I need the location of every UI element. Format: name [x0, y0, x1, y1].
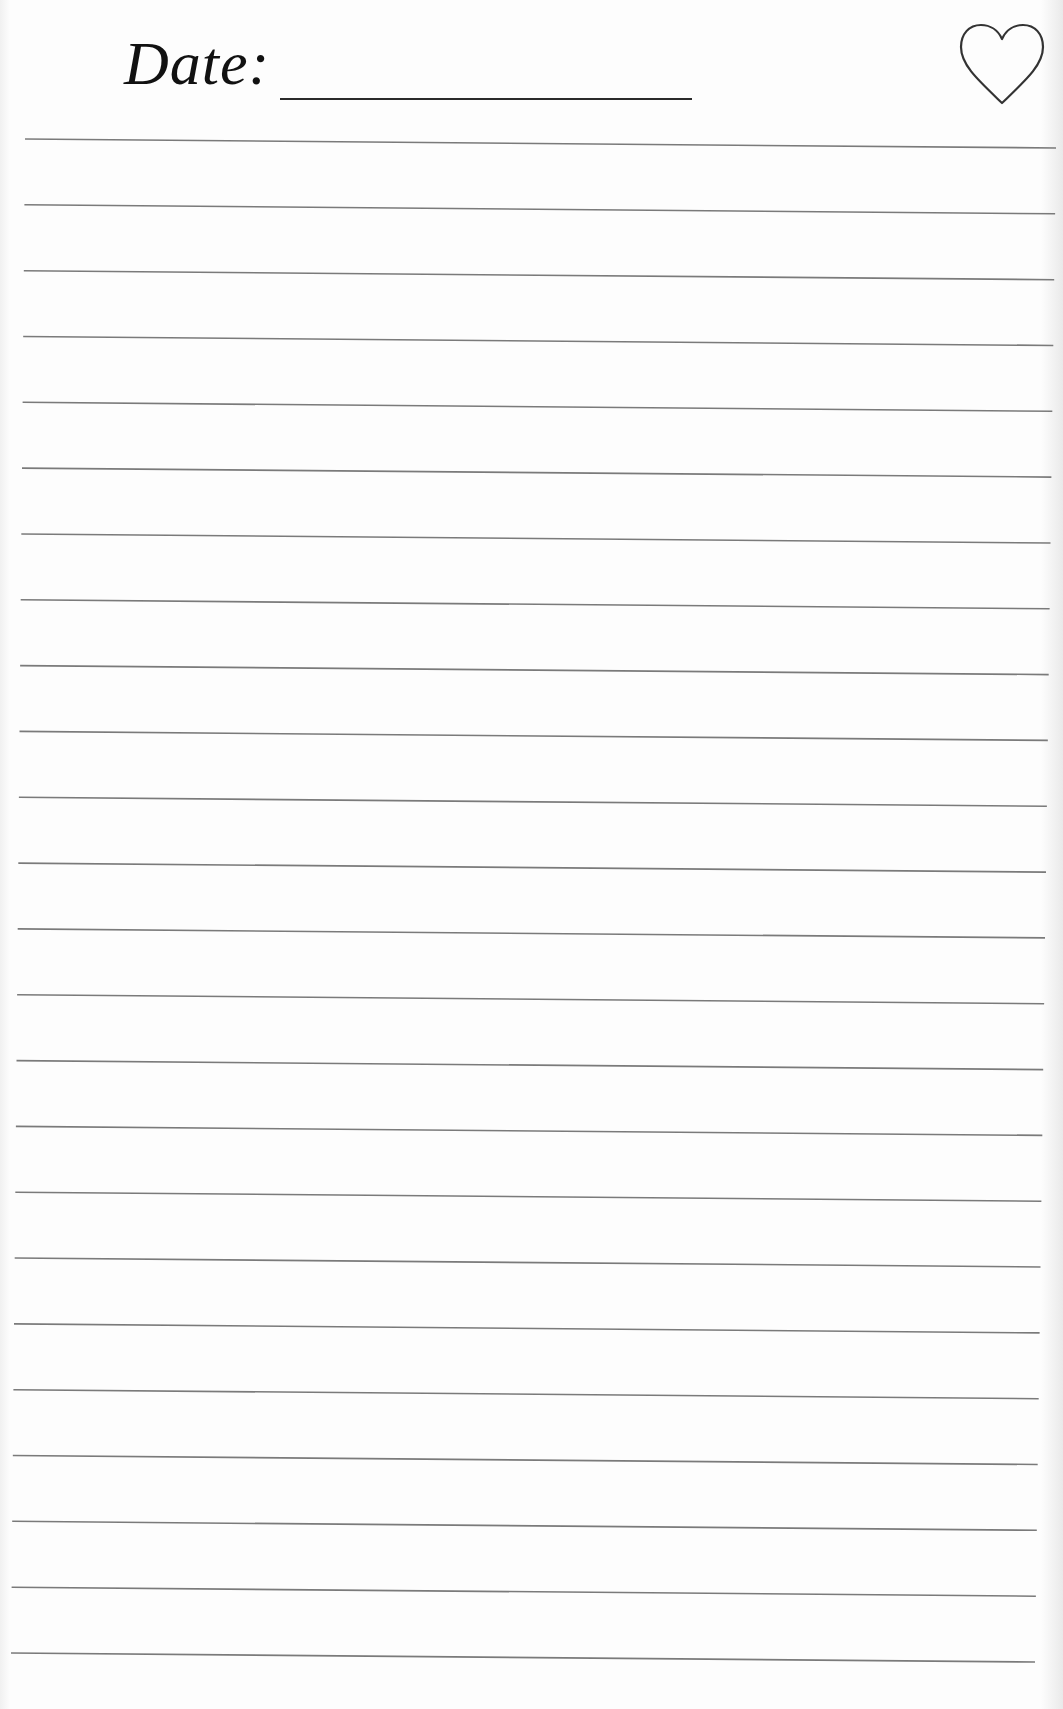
ruled-line[interactable]: [18, 929, 1045, 938]
ruled-line[interactable]: [24, 271, 1054, 280]
ruled-line[interactable]: [18, 863, 1046, 872]
ruled-line[interactable]: [17, 1061, 1044, 1070]
ruled-line[interactable]: [25, 139, 1056, 148]
ruled-line[interactable]: [17, 995, 1044, 1004]
ruled-line[interactable]: [21, 600, 1050, 609]
ruled-line[interactable]: [12, 1587, 1036, 1596]
journal-page: Date:: [0, 0, 1063, 1709]
ruled-line[interactable]: [13, 1456, 1038, 1465]
ruled-line[interactable]: [20, 666, 1049, 675]
ruled-line[interactable]: [12, 1521, 1037, 1530]
ruled-lines[interactable]: [0, 0, 1063, 1709]
ruled-line[interactable]: [21, 534, 1050, 543]
ruled-line[interactable]: [19, 797, 1047, 806]
ruled-line[interactable]: [24, 205, 1055, 214]
ruled-line[interactable]: [15, 1192, 1041, 1201]
ruled-line[interactable]: [15, 1258, 1041, 1267]
ruled-line[interactable]: [11, 1653, 1035, 1662]
ruled-line[interactable]: [23, 402, 1053, 411]
ruled-line[interactable]: [23, 337, 1053, 346]
ruled-line[interactable]: [13, 1390, 1038, 1399]
ruled-line[interactable]: [16, 1126, 1042, 1135]
ruled-line[interactable]: [22, 468, 1051, 477]
ruled-line[interactable]: [14, 1324, 1040, 1333]
ruled-line[interactable]: [20, 731, 1048, 740]
